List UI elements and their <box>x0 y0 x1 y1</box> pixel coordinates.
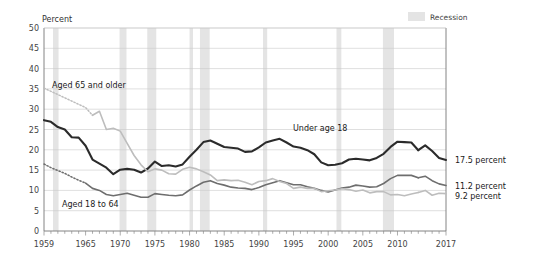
x-tick-label: 2017 <box>436 240 456 249</box>
poverty-rate-line-chart: 05101520253035404550Percent1959196519701… <box>0 0 533 256</box>
end-label-aged-65-and-older: 9.2 percent <box>455 192 501 201</box>
y-tick-label: 45 <box>29 44 39 53</box>
end-label-under-age-18: 17.5 percent <box>455 156 506 165</box>
y-tick-label: 10 <box>29 186 39 195</box>
x-tick-label: 1995 <box>283 240 303 249</box>
x-tick-label: 2000 <box>318 240 338 249</box>
series-label-under-age-18: Under age 18 <box>293 124 347 133</box>
legend-recession-swatch <box>408 12 425 21</box>
series-label-aged-18-to-64: Aged 18 to 64 <box>62 200 119 209</box>
x-tick-label: 2005 <box>353 240 373 249</box>
x-tick-label: 1985 <box>214 240 234 249</box>
y-tick-label: 0 <box>34 227 39 236</box>
y-tick-label: 30 <box>29 105 39 114</box>
x-tick-label: 1959 <box>34 240 54 249</box>
y-tick-label: 15 <box>29 166 39 175</box>
y-tick-label: 35 <box>29 85 39 94</box>
y-tick-label: 20 <box>29 146 39 155</box>
y-tick-label: 40 <box>29 65 39 74</box>
x-tick-label: 1990 <box>249 240 269 249</box>
y-tick-label: 50 <box>29 24 39 33</box>
y-axis-title: Percent <box>42 15 72 24</box>
x-tick-label: 1965 <box>75 240 95 249</box>
y-tick-label: 5 <box>34 207 39 216</box>
legend-recession-label: Recession <box>430 13 468 22</box>
end-label-aged-18-to-64: 11.2 percent <box>455 182 506 191</box>
y-tick-label: 25 <box>29 126 39 135</box>
chart-root: 05101520253035404550Percent1959196519701… <box>0 0 533 256</box>
series-label-aged-65-and-older: Aged 65 and older <box>52 81 127 90</box>
x-tick-label: 1975 <box>145 240 165 249</box>
x-tick-label: 1970 <box>110 240 130 249</box>
x-tick-label: 2010 <box>387 240 407 249</box>
x-tick-label: 1980 <box>179 240 199 249</box>
